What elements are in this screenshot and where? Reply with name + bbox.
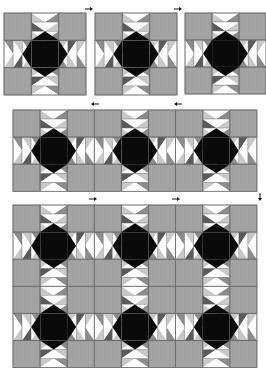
flying-goose-unit <box>103 313 112 340</box>
star-block-r1c1 <box>13 110 94 191</box>
flying-goose-unit <box>239 313 248 340</box>
star-block-r1c1 <box>13 205 94 286</box>
flying-goose-unit <box>103 232 112 259</box>
corner-square <box>94 259 121 286</box>
corner-square <box>67 205 94 232</box>
flying-goose-unit <box>121 359 148 368</box>
flying-goose-unit <box>176 232 185 259</box>
flying-goose-unit <box>22 313 31 340</box>
assembly-arrow-right-icon <box>85 7 93 11</box>
flying-goose-unit <box>13 137 22 164</box>
flying-goose-unit <box>176 137 185 164</box>
flying-goose-unit <box>13 40 22 67</box>
corner-square <box>149 341 176 368</box>
corner-square <box>150 68 177 95</box>
flying-goose-unit <box>122 86 149 95</box>
corner-square <box>230 110 257 137</box>
flying-goose-unit <box>203 286 230 295</box>
flying-goose-unit <box>94 137 103 164</box>
flying-goose-unit <box>40 277 67 286</box>
corner-square <box>95 68 122 95</box>
flying-goose-unit <box>167 313 176 340</box>
corner-square <box>67 110 94 137</box>
flying-goose-unit <box>239 232 248 259</box>
corner-square <box>59 13 86 40</box>
flying-goose-unit <box>121 350 148 359</box>
flying-goose-unit <box>121 205 148 214</box>
step-2-row <box>13 110 257 191</box>
flying-goose-unit <box>121 214 148 223</box>
flying-goose-unit <box>203 214 230 223</box>
flying-goose-unit <box>159 40 168 67</box>
flying-goose-unit <box>122 22 149 31</box>
flying-goose-unit <box>94 232 103 259</box>
flying-goose-unit <box>203 205 230 214</box>
star-block-2 <box>95 13 177 95</box>
flying-goose-unit <box>185 137 194 164</box>
corner-square <box>176 259 203 286</box>
star-block-r1c3 <box>176 205 257 286</box>
flying-goose-unit <box>203 119 230 128</box>
flying-goose-unit <box>158 232 167 259</box>
flying-goose-unit <box>168 40 177 67</box>
flying-goose-unit <box>122 13 149 22</box>
flying-goose-unit <box>167 137 176 164</box>
flying-goose-unit <box>31 13 58 22</box>
flying-goose-unit <box>203 277 230 286</box>
flying-goose-unit <box>76 232 85 259</box>
flying-goose-unit <box>248 40 257 67</box>
flying-goose-unit <box>248 313 257 340</box>
corner-square <box>13 164 40 191</box>
corner-square <box>149 164 176 191</box>
flying-goose-unit <box>76 137 85 164</box>
corner-square <box>230 164 257 191</box>
flying-goose-unit <box>185 40 194 67</box>
corner-square <box>230 205 257 232</box>
flying-goose-unit <box>40 295 67 304</box>
flying-goose-unit <box>212 85 239 94</box>
star-block-1 <box>4 13 86 95</box>
flying-goose-unit <box>121 295 148 304</box>
flying-goose-unit <box>31 86 58 95</box>
flying-goose-unit <box>203 350 230 359</box>
star-center <box>31 40 58 67</box>
star-center <box>40 137 67 164</box>
star-block-r2c1 <box>13 286 94 367</box>
corner-square <box>13 259 40 286</box>
star-center <box>121 232 148 259</box>
corner-square <box>176 164 203 191</box>
star-block-r1c3 <box>176 110 257 191</box>
assembly-arrow-left-icon <box>174 102 182 106</box>
flying-goose-unit <box>31 22 58 31</box>
flying-goose-unit <box>121 268 148 277</box>
flying-goose-unit <box>13 313 22 340</box>
flying-goose-unit <box>185 232 194 259</box>
flying-goose-unit <box>85 232 94 259</box>
corner-square <box>149 286 176 313</box>
flying-goose-unit <box>158 137 167 164</box>
corner-square <box>67 259 94 286</box>
corner-square <box>94 164 121 191</box>
flying-goose-unit <box>121 286 148 295</box>
corner-square <box>94 341 121 368</box>
star-block-r2c2 <box>94 286 175 367</box>
flying-goose-unit <box>121 277 148 286</box>
flying-goose-unit <box>203 359 230 368</box>
flying-goose-unit <box>22 137 31 164</box>
corner-square <box>230 341 257 368</box>
corner-square <box>176 341 203 368</box>
flying-goose-unit <box>121 182 148 191</box>
flying-goose-unit <box>40 110 67 119</box>
flying-goose-unit <box>167 232 176 259</box>
corner-square <box>239 13 266 40</box>
flying-goose-unit <box>203 110 230 119</box>
flying-goose-unit <box>85 313 94 340</box>
flying-goose-unit <box>85 137 94 164</box>
quilt-assembly-diagram <box>0 0 266 378</box>
flying-goose-unit <box>257 40 266 67</box>
corner-square <box>230 259 257 286</box>
assembly-arrow-right-icon <box>174 7 182 11</box>
step-3-top <box>13 205 257 368</box>
flying-goose-unit <box>103 137 112 164</box>
flying-goose-unit <box>176 313 185 340</box>
